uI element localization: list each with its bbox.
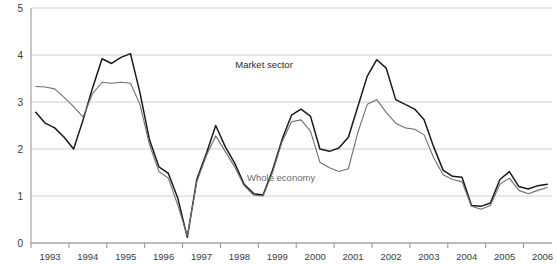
y-tick-label-1: 1: [17, 191, 23, 202]
series-line-market-sector: [36, 54, 548, 238]
x-tick-labels-group: 1993199419951996199719981999200020012002…: [39, 251, 553, 262]
x-tick-label-1998: 1998: [229, 251, 250, 262]
x-tick-label-1997: 1997: [191, 251, 212, 262]
x-tick-label-2003: 2003: [418, 251, 439, 262]
x-tick-label-1994: 1994: [77, 251, 98, 262]
y-tick-label-4: 4: [17, 50, 23, 61]
chart-plot-area: 012345 199319941995199619971998199920002…: [0, 0, 557, 264]
line-chart: 012345 199319941995199619971998199920002…: [0, 0, 557, 264]
y-tick-label-2: 2: [17, 144, 23, 155]
x-tick-label-2002: 2002: [380, 251, 401, 262]
x-tick-label-1993: 1993: [39, 251, 60, 262]
x-tick-label-2000: 2000: [305, 251, 326, 262]
series-line-whole-economy: [36, 82, 548, 236]
x-tick-label-2001: 2001: [343, 251, 364, 262]
x-tick-label-2006: 2006: [532, 251, 553, 262]
x-tick-label-2005: 2005: [494, 251, 515, 262]
series-label-whole-economy: Whole economy: [247, 172, 315, 183]
series-label-market-sector: Market sector: [235, 59, 293, 70]
x-tick-marks-group: [31, 243, 524, 248]
y-tick-labels-group: 012345: [17, 3, 23, 249]
y-tick-label-3: 3: [17, 97, 23, 108]
y-tick-label-0: 0: [17, 238, 23, 249]
gridlines-group: [31, 8, 552, 243]
x-tick-label-1999: 1999: [267, 251, 288, 262]
y-tick-label-5: 5: [17, 3, 23, 14]
x-tick-label-1995: 1995: [115, 251, 136, 262]
x-tick-label-1996: 1996: [153, 251, 174, 262]
x-tick-label-2004: 2004: [456, 251, 477, 262]
data-series-group: [36, 54, 548, 238]
